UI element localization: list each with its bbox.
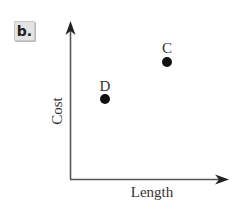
point-c-label: C (162, 40, 172, 56)
x-axis-label: Length (131, 184, 174, 200)
point-d-label: D (100, 78, 111, 94)
point-d-marker (100, 94, 110, 104)
point-c: C (162, 40, 172, 67)
y-axis-label: Cost (49, 96, 65, 124)
point-c-marker (162, 57, 172, 67)
figure-panel: b. D C Length Cost (0, 0, 244, 212)
scatter-plot: D C Length Cost (0, 0, 244, 212)
point-d: D (100, 78, 111, 104)
